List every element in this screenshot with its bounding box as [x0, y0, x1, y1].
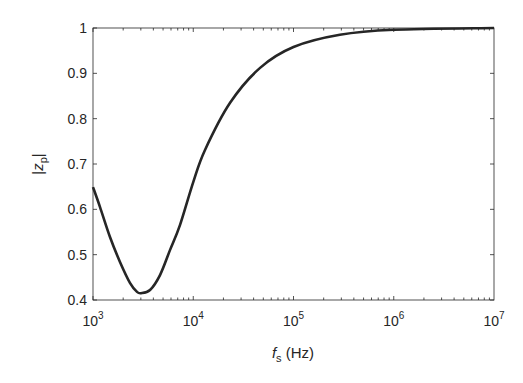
y-axis-label: |zp| [29, 153, 49, 174]
x-axis-ticks [93, 28, 489, 300]
y-tick-label: 1 [79, 20, 87, 36]
x-tick-label: 103 [82, 310, 104, 329]
y-axis-tick-labels: 0.40.50.60.70.80.91 [68, 20, 88, 308]
y-tick-label: 0.4 [68, 292, 88, 308]
y-tick-label: 0.9 [68, 65, 88, 81]
x-tick-label: 106 [383, 310, 405, 329]
axes-frame [93, 28, 494, 300]
y-tick-label: 0.5 [68, 247, 88, 263]
x-axis-tick-labels: 103104105106107 [82, 310, 505, 329]
chart: 103104105106107 0.40.50.60.70.80.91 fs (… [0, 0, 523, 383]
y-tick-label: 0.8 [68, 111, 88, 127]
x-tick-label: 105 [283, 310, 305, 329]
y-axis-ticks [93, 28, 494, 300]
x-tick-label: 104 [183, 310, 205, 329]
y-tick-label: 0.6 [68, 201, 88, 217]
y-tick-label: 0.7 [68, 156, 88, 172]
x-tick-label: 107 [483, 310, 505, 329]
y-axis-label-bar-right: | [29, 153, 46, 157]
data-series-line [93, 28, 494, 293]
x-axis-label: fs (Hz) [272, 344, 314, 364]
x-axis-label-units: (Hz) [282, 344, 315, 361]
